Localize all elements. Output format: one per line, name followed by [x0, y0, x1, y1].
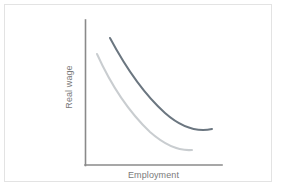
upper-curve [110, 38, 212, 130]
plot-area [0, 0, 283, 194]
lower-curve [97, 54, 192, 150]
figure-container: Employment Real wage [0, 0, 283, 194]
y-axis-label: Real wage [64, 65, 74, 108]
x-axis-label: Employment [85, 170, 222, 180]
